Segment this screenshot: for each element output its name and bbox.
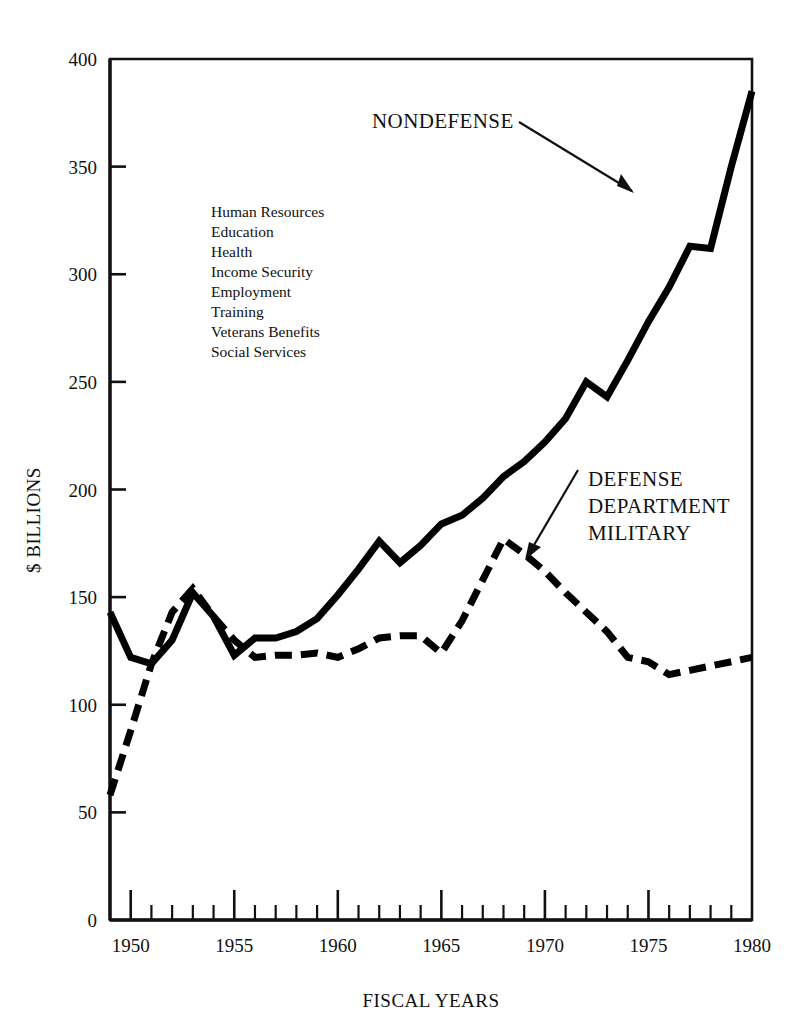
- note-line-8: Social Services: [211, 343, 306, 360]
- y-axis-tick-labels: 050100150200250300350400: [69, 49, 98, 931]
- defense-label-line3: MILITARY: [588, 521, 691, 545]
- chart-canvas: 050100150200250300350400 195019551960196…: [0, 0, 808, 1035]
- y-tick-label-350: 350: [69, 157, 98, 178]
- annotation-defense: DEFENSE DEPARTMENT MILITARY: [525, 467, 730, 560]
- x-axis-tick-labels: 1950195519601965197019751980: [112, 935, 771, 956]
- y-tick-label-50: 50: [78, 802, 97, 823]
- nondefense-label: NONDEFENSE: [372, 109, 514, 133]
- note-line-6: Training: [211, 303, 264, 320]
- nondefense-components-note: Human Resources Education Health Income …: [211, 203, 324, 360]
- note-line-4: Income Security: [211, 263, 313, 280]
- y-tick-label-400: 400: [69, 49, 98, 70]
- nondefense-leader-line: [519, 122, 632, 191]
- defense-label-line1: DEFENSE: [588, 467, 683, 491]
- series-line-defense: [110, 539, 752, 795]
- annotation-nondefense: NONDEFENSE: [372, 109, 634, 193]
- x-axis-title: FISCAL YEARS: [362, 990, 499, 1011]
- note-line-3: Health: [211, 243, 253, 260]
- y-axis-title: $ BILLIONS: [23, 467, 44, 573]
- x-tick-label-1960: 1960: [319, 935, 357, 956]
- nondefense-arrowhead: [617, 174, 634, 193]
- y-tick-label-0: 0: [88, 910, 98, 931]
- y-tick-label-150: 150: [69, 587, 98, 608]
- defense-label-line2: DEPARTMENT: [588, 494, 730, 518]
- defense-leader-line: [527, 470, 578, 557]
- x-tick-label-1980: 1980: [733, 935, 771, 956]
- chart-figure: 050100150200250300350400 195019551960196…: [0, 0, 808, 1035]
- x-axis-ticks: [131, 890, 732, 920]
- x-tick-label-1965: 1965: [422, 935, 460, 956]
- y-tick-label-300: 300: [69, 264, 98, 285]
- x-tick-label-1950: 1950: [112, 935, 150, 956]
- x-tick-label-1970: 1970: [526, 935, 564, 956]
- note-line-7: Veterans Benefits: [211, 323, 320, 340]
- y-axis-ticks: [110, 167, 126, 813]
- y-tick-label-100: 100: [69, 695, 98, 716]
- note-line-5: Employment: [211, 283, 292, 300]
- y-tick-label-250: 250: [69, 372, 98, 393]
- series-line-nondefense: [110, 91, 752, 664]
- note-line-1: Human Resources: [211, 203, 324, 220]
- x-tick-label-1975: 1975: [629, 935, 667, 956]
- x-tick-label-1955: 1955: [215, 935, 253, 956]
- y-tick-label-200: 200: [69, 480, 98, 501]
- note-line-2: Education: [211, 223, 274, 240]
